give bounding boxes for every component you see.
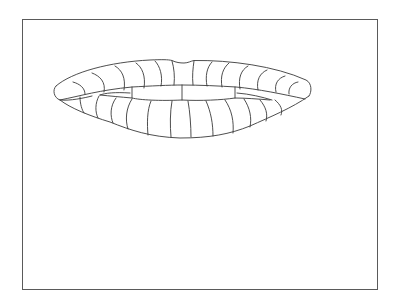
upper-stripe [155, 61, 162, 86]
lower-stripe [206, 101, 213, 136]
lower-stripe [96, 96, 99, 118]
lower-lip [60, 96, 309, 138]
upper-stripe [73, 82, 85, 94]
upper-stripe [115, 66, 125, 90]
lower-stripe [170, 101, 172, 137]
upper-stripe [257, 70, 267, 90]
upper-stripe [275, 76, 285, 92]
upper-stripe [193, 61, 194, 85]
lower-teeth-edge-left [100, 93, 130, 95]
upper-stripe [172, 61, 174, 85]
lower-stripe [147, 101, 151, 135]
upper-stripe [136, 63, 145, 88]
upper-stripe [92, 73, 104, 92]
left-corner [54, 86, 92, 100]
upper-stripe [289, 82, 298, 94]
upper-lip-outline [56, 60, 311, 96]
upper-stripe [221, 63, 229, 87]
lips-drawing [0, 0, 398, 304]
lower-stripe [126, 99, 132, 129]
lower-stripe [111, 98, 116, 123]
lower-stripe [80, 97, 84, 113]
upper-stripe [206, 62, 212, 86]
lower-stripe [260, 100, 267, 121]
upper-stripe [239, 66, 248, 89]
lower-stripe [225, 100, 233, 133]
upper-lip-inner [60, 85, 305, 100]
lower-stripe [244, 99, 251, 127]
lower-stripe [188, 101, 191, 137]
